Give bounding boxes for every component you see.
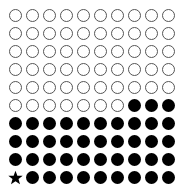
empty-dot-icon [77,81,90,94]
waffle-cell [41,132,58,150]
filled-dot-icon [9,153,22,166]
waffle-cell [24,60,41,78]
empty-dot-icon [162,63,175,76]
waffle-cell [92,42,109,60]
filled-dot-icon [60,117,73,130]
waffle-cell [7,114,24,132]
empty-dot-icon [111,9,124,22]
waffle-cell [92,114,109,132]
waffle-cell [75,60,92,78]
waffle-cell [7,150,24,168]
filled-dot-icon [9,135,22,148]
empty-dot-icon [26,99,39,112]
empty-dot-icon [60,9,73,22]
waffle-cell [7,168,24,186]
empty-dot-icon [111,81,124,94]
filled-dot-icon [128,99,141,112]
filled-dot-icon [60,153,73,166]
waffle-cell [75,132,92,150]
waffle-cell [109,132,126,150]
waffle-cell [143,96,160,114]
filled-dot-icon [162,171,175,184]
waffle-cell [160,114,177,132]
empty-dot-icon [43,81,56,94]
empty-dot-icon [26,9,39,22]
filled-dot-icon [145,99,158,112]
filled-dot-icon [111,153,124,166]
waffle-cell [109,24,126,42]
waffle-cell [143,168,160,186]
waffle-cell [126,168,143,186]
empty-dot-icon [128,63,141,76]
filled-dot-icon [94,171,107,184]
waffle-cell [75,78,92,96]
waffle-cell [7,6,24,24]
empty-dot-icon [9,27,22,40]
waffle-cell [75,6,92,24]
empty-dot-icon [26,81,39,94]
empty-dot-icon [9,81,22,94]
filled-dot-icon [111,117,124,130]
empty-dot-icon [145,63,158,76]
waffle-cell [41,78,58,96]
empty-dot-icon [60,99,73,112]
filled-dot-icon [145,153,158,166]
empty-dot-icon [43,45,56,58]
filled-dot-icon [60,171,73,184]
filled-dot-icon [145,135,158,148]
filled-dot-icon [9,117,22,130]
waffle-cell [24,132,41,150]
empty-dot-icon [162,81,175,94]
waffle-cell [41,42,58,60]
waffle-cell [24,150,41,168]
waffle-cell [126,78,143,96]
empty-dot-icon [128,9,141,22]
waffle-cell [24,6,41,24]
filled-dot-icon [111,135,124,148]
waffle-cell [160,132,177,150]
empty-dot-icon [111,99,124,112]
filled-dot-icon [77,135,90,148]
waffle-cell [126,114,143,132]
empty-dot-icon [145,81,158,94]
waffle-cell [58,114,75,132]
filled-dot-icon [43,153,56,166]
waffle-cell [7,60,24,78]
waffle-cell [41,168,58,186]
waffle-cell [160,60,177,78]
empty-dot-icon [9,45,22,58]
filled-dot-icon [128,153,141,166]
filled-dot-icon [43,135,56,148]
waffle-cell [58,60,75,78]
waffle-cell [58,150,75,168]
empty-dot-icon [94,45,107,58]
filled-dot-icon [94,153,107,166]
waffle-cell [160,6,177,24]
waffle-cell [126,42,143,60]
waffle-cell [58,168,75,186]
waffle-cell [160,96,177,114]
waffle-cell [58,24,75,42]
waffle-cell [75,150,92,168]
waffle-cell [109,96,126,114]
filled-dot-icon [145,117,158,130]
filled-dot-icon [77,117,90,130]
waffle-cell [24,114,41,132]
waffle-cell [75,24,92,42]
filled-dot-icon [128,171,141,184]
waffle-cell [109,78,126,96]
empty-dot-icon [94,27,107,40]
filled-dot-icon [43,117,56,130]
waffle-cell [160,24,177,42]
waffle-cell [143,24,160,42]
waffle-cell [160,168,177,186]
waffle-cell [126,96,143,114]
empty-dot-icon [77,45,90,58]
filled-dot-icon [94,117,107,130]
waffle-cell [160,42,177,60]
waffle-cell [24,168,41,186]
empty-dot-icon [26,63,39,76]
empty-dot-icon [60,81,73,94]
filled-dot-icon [77,171,90,184]
waffle-cell [41,6,58,24]
